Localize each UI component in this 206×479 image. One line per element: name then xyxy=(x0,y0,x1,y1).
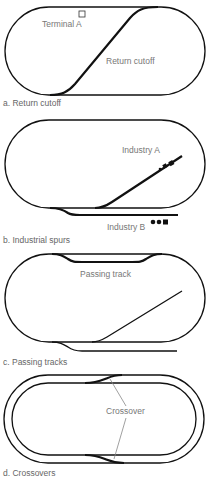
industry-b-building-icon xyxy=(163,220,168,225)
main-loop-oval xyxy=(5,7,205,95)
industry-a-label: Industry A xyxy=(122,145,160,155)
panel-return-cutoff: Terminal A Return cutoff a. Return cutof… xyxy=(3,7,205,108)
terminal-building-icon xyxy=(79,11,85,17)
industry-b-building-icon xyxy=(151,220,156,225)
crossover-leader-bottom xyxy=(114,418,126,459)
bottom-crossover xyxy=(85,455,124,463)
return-cutoff-label: Return cutoff xyxy=(106,56,155,66)
industry-b-label: Industry B xyxy=(107,222,146,232)
inner-loop-oval xyxy=(12,383,196,455)
industry-b-spur xyxy=(50,208,178,215)
passing-track-siding xyxy=(52,254,162,262)
caption-c: c. Passing tracks xyxy=(3,357,67,367)
outer-loop-oval xyxy=(4,375,204,463)
passing-track-label: Passing track xyxy=(80,269,132,279)
spur-lower xyxy=(52,342,177,351)
industry-a-spur xyxy=(95,156,182,208)
industry-b-building-icon xyxy=(157,220,162,225)
crossover-label: Crossover xyxy=(106,406,145,416)
industry-a-building-icon xyxy=(159,168,162,171)
main-loop-oval xyxy=(5,120,205,208)
top-crossover xyxy=(85,375,122,383)
panel-industrial-spurs: Industry A Industry B b. Industrial spur… xyxy=(3,120,205,245)
spur-diagonal xyxy=(92,291,182,342)
caption-b: b. Industrial spurs xyxy=(3,235,70,245)
main-loop-oval xyxy=(5,254,205,342)
track-plan-diagrams: Terminal A Return cutoff a. Return cutof… xyxy=(0,0,206,479)
panel-passing-tracks: Passing track c. Passing tracks xyxy=(3,254,205,367)
terminal-a-label: Terminal A xyxy=(42,19,82,29)
panel-crossovers: Crossover d. Crossovers xyxy=(3,375,204,478)
caption-a: a. Return cutoff xyxy=(3,98,62,108)
caption-d: d. Crossovers xyxy=(3,468,55,478)
